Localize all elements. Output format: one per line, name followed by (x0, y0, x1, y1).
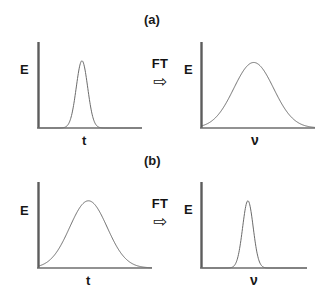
x-axis-label-a-right: ν (251, 132, 259, 148)
right-block-arrow-icon-b: ⇨ (143, 213, 177, 230)
panel-label-a: (a) (144, 12, 160, 27)
right-block-arrow-icon: ⇨ (143, 73, 177, 90)
plot-a-right (197, 40, 315, 132)
plot-a-left-canvas (34, 40, 142, 132)
y-axis-label-a-right: E (184, 62, 193, 77)
y-axis-label-b-right: E (184, 202, 193, 217)
plot-a-left (34, 40, 142, 132)
ft-operator-a: FT ⇨ (143, 57, 177, 90)
curve-narrow-frequency-spectrum (202, 201, 308, 268)
x-axis-label-b-right: ν (250, 272, 258, 288)
ft-label-a: FT (143, 57, 177, 70)
curve-narrow-time-pulse (39, 61, 143, 128)
fourier-transform-figure: (a) E t FT ⇨ E ν (b) E t FT (0, 0, 324, 301)
plot-b-left (34, 180, 152, 272)
curve-broad-frequency-spectrum (202, 62, 316, 127)
y-axis-label-a-left: E (20, 62, 29, 77)
plot-b-right (197, 180, 307, 272)
panel-label-b: (b) (144, 153, 161, 168)
x-axis-label-b-left: t (86, 273, 90, 288)
ft-operator-b: FT ⇨ (143, 197, 177, 230)
ft-label-b: FT (143, 197, 177, 210)
plot-b-left-canvas (34, 180, 152, 272)
curve-broad-time-pulse (39, 201, 153, 268)
plot-a-right-canvas (197, 40, 315, 132)
plot-b-right-canvas (197, 180, 307, 272)
x-axis-label-a-left: t (82, 133, 86, 148)
y-axis-label-b-left: E (20, 203, 29, 218)
